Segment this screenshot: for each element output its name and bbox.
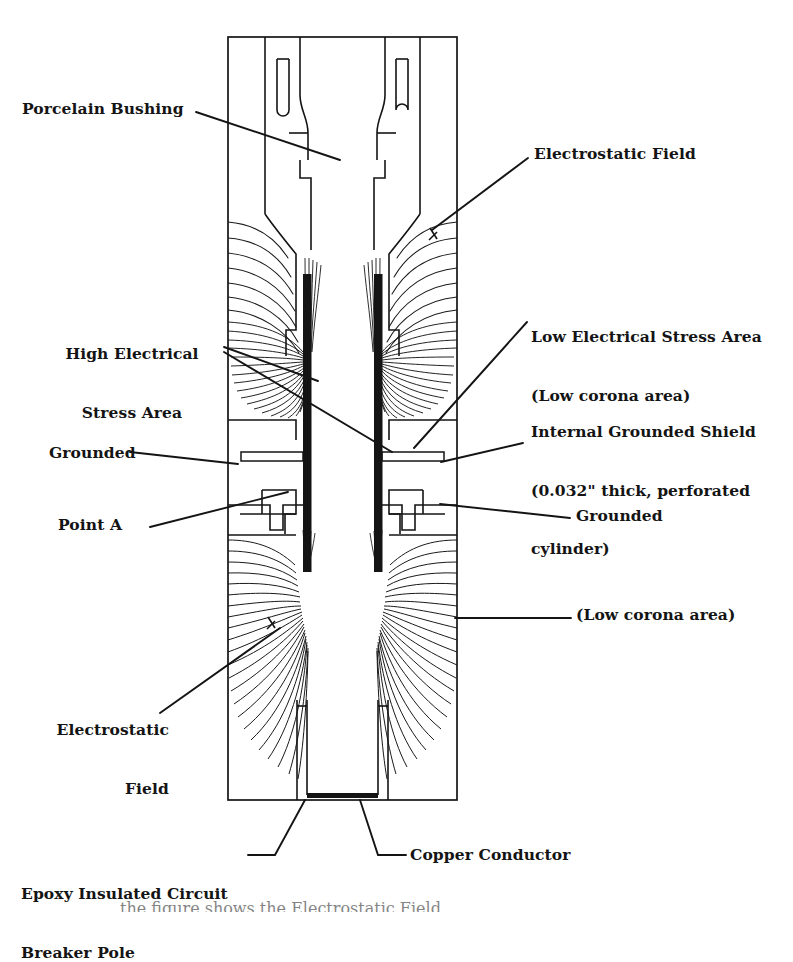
label-internal-grounded-shield: Internal Grounded Shield (0.032" thick, … bbox=[531, 383, 756, 598]
leader-lines bbox=[130, 112, 571, 855]
high-stress-fan-left bbox=[228, 322, 308, 418]
label-copper-conductor: Copper Conductor bbox=[410, 845, 571, 865]
diagram-outline bbox=[228, 37, 457, 800]
label-electrostatic-field-top: Electrostatic Field bbox=[534, 144, 696, 164]
pole-base-outline bbox=[297, 700, 388, 800]
internal-grounded-shield bbox=[241, 452, 444, 461]
lower-field-fan-left bbox=[228, 540, 308, 779]
high-stress-fan-right bbox=[377, 322, 457, 418]
conductor-base-bar bbox=[307, 793, 378, 798]
label-high-stress-line1: High Electrical bbox=[42, 344, 222, 364]
label-electrostatic-field-bottom: Electrostatic Field bbox=[29, 681, 169, 837]
label-porcelain-bushing: Porcelain Bushing bbox=[22, 99, 184, 119]
label-grounded-right: Grounded bbox=[576, 506, 663, 526]
label-point-a: Point A bbox=[58, 515, 122, 535]
label-low-corona-area: (Low corona area) bbox=[576, 605, 735, 625]
label-high-stress-line2: Stress Area bbox=[42, 403, 222, 423]
lower-field-fan-right bbox=[377, 540, 457, 779]
porcelain-bushing-outline bbox=[265, 37, 420, 214]
label-low-stress-line1: Low Electrical Stress Area bbox=[531, 327, 762, 347]
figure-caption-partial: the figure shows the Electrostatic Field bbox=[120, 899, 680, 912]
label-estatic-bottom-line1: Electrostatic bbox=[29, 720, 169, 740]
label-high-electrical-stress-area: High Electrical Stress Area bbox=[42, 305, 222, 461]
label-estatic-bottom-line2: Field bbox=[29, 779, 169, 799]
field-lines-upper bbox=[228, 222, 457, 353]
label-shield-line1: Internal Grounded Shield bbox=[531, 422, 756, 442]
label-shield-line2: (0.032" thick, perforated bbox=[531, 481, 756, 501]
label-shield-line3: cylinder) bbox=[531, 539, 756, 559]
label-grounded-left: Grounded bbox=[49, 443, 136, 463]
label-epoxy-line2: Breaker Pole bbox=[21, 943, 228, 962]
